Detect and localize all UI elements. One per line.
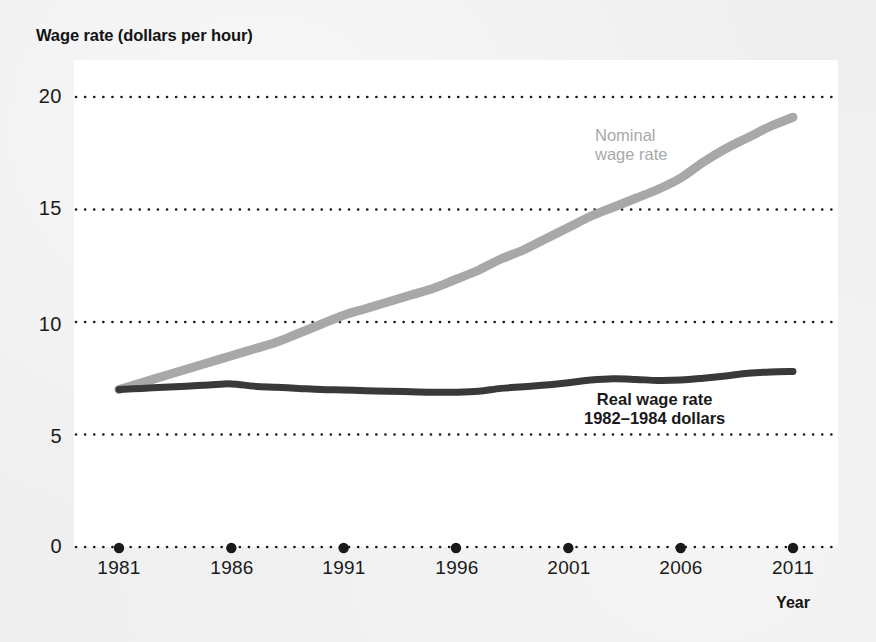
- nominal-wage-rate-label: Nominal wage rate: [595, 126, 667, 164]
- gridlines: [76, 97, 835, 547]
- y-tick-label-10: 10: [16, 313, 62, 336]
- x-tick-label-2006: 2006: [636, 557, 726, 579]
- nominal-label-line1: Nominal: [595, 126, 667, 145]
- x-tick-label-1991: 1991: [299, 557, 389, 579]
- chart-figure: Wage rate (dollars per hour) 20 15 10 5 …: [0, 0, 876, 642]
- y-tick-label-15: 15: [16, 197, 62, 220]
- x-tick-label-2001: 2001: [524, 557, 614, 579]
- x-tick-dot-2001: [563, 543, 573, 553]
- x-axis-title: Year: [748, 594, 838, 612]
- x-tick-dot-1996: [451, 543, 461, 553]
- x-tick-dot-1981: [114, 543, 124, 553]
- x-tick-label-1981: 1981: [74, 557, 164, 579]
- nominal-wage-rate-line: [119, 117, 793, 389]
- real-label-line2: 1982–1984 dollars: [584, 409, 725, 428]
- nominal-label-line2: wage rate: [595, 145, 667, 164]
- x-tick-dot-2011: [788, 543, 798, 553]
- real-label-line1: Real wage rate: [584, 390, 725, 409]
- y-tick-label-0: 0: [16, 535, 62, 558]
- x-tick-dot-2006: [675, 543, 685, 553]
- y-tick-label-20: 20: [16, 85, 62, 108]
- real-wage-rate-label: Real wage rate 1982–1984 dollars: [584, 390, 725, 428]
- x-tick-label-1996: 1996: [412, 557, 502, 579]
- chart-canvas: [0, 0, 876, 642]
- y-tick-label-5: 5: [16, 425, 62, 448]
- x-tick-dot-1986: [226, 543, 236, 553]
- x-tick-label-2011: 2011: [748, 557, 838, 579]
- x-tick-dot-1991: [338, 543, 348, 553]
- x-tick-label-1986: 1986: [187, 557, 277, 579]
